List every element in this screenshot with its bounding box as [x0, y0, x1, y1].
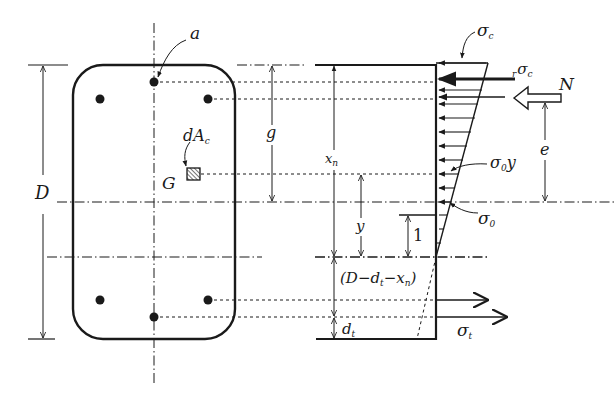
- label-dim-dt-sub: t: [352, 329, 356, 339]
- reference-lines: [57, 65, 614, 317]
- label-dim-g: g: [266, 125, 276, 141]
- cross-section: [28, 23, 262, 383]
- label-sigma-0-sub: 0: [490, 219, 496, 229]
- label-eccentricity-e: e: [540, 142, 549, 158]
- rebar-bottom-left: [96, 296, 105, 305]
- label-dim-dt-main: d: [342, 320, 352, 338]
- label-sigma-t-main: σ: [457, 320, 469, 340]
- tension-virtual-slope: [417, 257, 436, 339]
- label-sigma-t: σt: [457, 322, 472, 341]
- label-r-sigma-c-main: σ: [517, 60, 527, 78]
- label-dim-xn-sub: n: [332, 158, 338, 168]
- label-dim-xn: xn: [325, 152, 338, 168]
- label-sigma-0-main: σ: [478, 208, 490, 228]
- label-sigma-0y-tail: y: [507, 153, 516, 172]
- sigma-0y-pointer-icon: [451, 164, 487, 171]
- label-sigma-0y-main: σ: [490, 153, 501, 172]
- label-r-sigma-c-sub: c: [528, 69, 533, 79]
- label-axial-force-n: N: [559, 76, 574, 93]
- label-dim-y: y: [356, 219, 364, 234]
- label-rebar-a: a: [190, 25, 200, 42]
- label-sigma-c-main: σ: [477, 20, 489, 40]
- label-tz-a: (D−d: [340, 269, 380, 287]
- rebar-a-pointer-icon: [158, 40, 186, 77]
- label-dim-dt: dt: [342, 322, 355, 339]
- label-sigma-0y: σ0y: [490, 155, 516, 173]
- label-sigma-t-sub: t: [469, 331, 473, 341]
- label-dAc: dAc: [183, 128, 210, 146]
- label-tz-c: ): [411, 269, 417, 287]
- sigma-0-pointer-icon: [450, 203, 478, 213]
- area-element-dAc: [187, 168, 200, 180]
- rebar-top-center: [150, 78, 159, 87]
- label-sigma-c: σc: [477, 22, 494, 41]
- label-tz-b: −x: [384, 269, 405, 287]
- label-r-sigma-c-pre: r: [512, 69, 516, 79]
- rebar-top-left: [96, 95, 105, 104]
- label-dAc-main: dA: [183, 126, 205, 145]
- sigma-c-pointer-icon: [462, 32, 475, 58]
- label-centroid-g: G: [162, 175, 176, 192]
- label-r-sigma-c: rσc: [512, 62, 533, 79]
- label-dAc-sub: c: [205, 136, 210, 146]
- label-dim-tension-zone: (D−dt−xn): [340, 271, 416, 288]
- rebar-bottom-right: [204, 296, 213, 305]
- rebar-bottom-center: [150, 313, 159, 322]
- axial-force-n-arrow-icon: [514, 87, 561, 109]
- label-sigma-c-sub: c: [489, 31, 494, 41]
- rebar-top-right: [204, 95, 213, 104]
- label-depth-d: D: [35, 184, 49, 202]
- label-unit-height: 1: [413, 228, 423, 244]
- label-sigma-0: σ0: [478, 210, 495, 229]
